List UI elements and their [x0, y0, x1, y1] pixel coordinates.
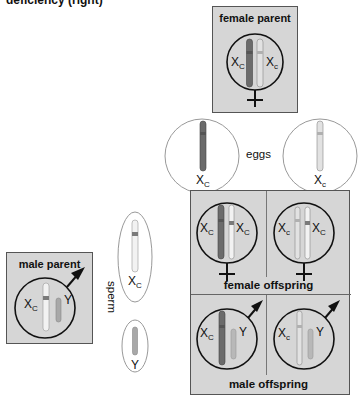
male-symbol-icon	[7, 253, 94, 345]
male-offspring-1-allele-right: Y	[316, 325, 324, 341]
egg-recessive-allele: Xc	[314, 173, 326, 189]
female-offspring-0-allele-right: XC	[236, 221, 250, 237]
male-parent-box: male parent XC Y	[6, 252, 93, 344]
female-offspring-1-allele-right: XC	[312, 221, 326, 237]
female-parent-box: female parent XC Xc	[212, 6, 298, 113]
female-parent-allele-left: XC	[231, 55, 245, 71]
female-symbol-icon	[213, 7, 299, 114]
female-offspring-1	[267, 191, 351, 291]
female-offspring-0-allele-left: XC	[200, 221, 214, 237]
sperm-label: sperm	[106, 281, 118, 313]
punnett-square: XC XC Xc XC female offspring XC Y Xc Y m…	[190, 190, 350, 395]
female-offspring-0	[191, 191, 267, 291]
sperm-x	[116, 210, 156, 306]
figure-title-fragment: deficiency (right)	[6, 0, 103, 7]
eggs-label: eggs	[246, 148, 271, 160]
male-parent-allele-x: XC	[24, 297, 38, 313]
female-offspring-label: female offspring	[191, 279, 346, 291]
sperm-x-allele: XC	[128, 274, 142, 290]
male-offspring-0-allele-left: XC	[200, 326, 214, 342]
female-parent-allele-right: Xc	[266, 55, 278, 71]
male-parent-allele-y: Y	[64, 293, 72, 307]
sperm-y-allele: Y	[131, 358, 139, 374]
egg-dominant-allele: XC	[196, 173, 210, 189]
male-offspring-0-allele-right: Y	[239, 325, 247, 341]
male-offspring-1-allele-left: Xc	[278, 326, 290, 342]
male-offspring-label: male offspring	[191, 378, 346, 390]
female-offspring-1-allele-left: Xc	[278, 221, 290, 237]
